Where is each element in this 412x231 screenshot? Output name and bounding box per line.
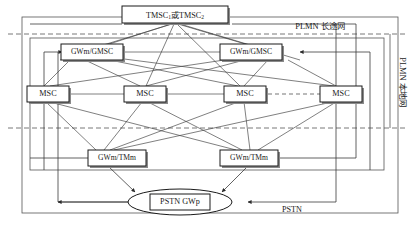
pstn-gwp-label: PSTN GWp xyxy=(160,197,200,206)
link-gwmgmscL-msc3 xyxy=(100,58,238,86)
diagram-canvas: TMSC1或TMSC2 GWm/GMSC GWm/GMSC MSC MSC xyxy=(0,0,412,231)
link-msc2-tmmR xyxy=(148,102,242,150)
link-gwmgmscL-msc2 xyxy=(85,60,140,86)
link-msc4-tmmR xyxy=(258,102,336,150)
link-gwmgmscR-msc3 xyxy=(244,60,268,86)
network-topology-diagram: TMSC1或TMSC2 GWm/GMSC GWm/GMSC MSC MSC xyxy=(0,0,412,231)
gwmgmsc-right-label: GWm/GMSC xyxy=(230,47,272,56)
link-msc3-tmmL xyxy=(110,102,238,150)
link-msc3-tmmR xyxy=(244,102,250,150)
link-tmsc-msc2 xyxy=(146,24,174,86)
route-right-up-to-gwmgmsc xyxy=(300,52,370,170)
node-pstn-gwp[interactable]: PSTN GWp xyxy=(128,189,232,215)
node-gwm-tmm-left[interactable]: GWm/TMm xyxy=(88,150,148,168)
link-msc2-tmmL xyxy=(104,102,142,150)
link-gwmgmscL-msc1 xyxy=(44,60,70,86)
node-gwm-tmm-right[interactable]: GWm/TMm xyxy=(220,150,280,168)
node-tmsc[interactable]: TMSC1或TMSC2 xyxy=(122,6,230,25)
tmsc-conjunction: 或 xyxy=(171,9,179,19)
node-gwm-gmsc-left[interactable]: GWm/GMSC xyxy=(61,44,125,62)
link-msc1-tmmL xyxy=(46,102,96,150)
link-gwmgmscL-msc4 xyxy=(101,56,334,86)
gwmtmm-left-label: GWm/TMm xyxy=(98,153,136,162)
link-tmsc-gwmgmsc-right xyxy=(178,24,252,46)
gwmtmm-right-label: GWm/TMm xyxy=(230,153,268,162)
tmsc-sub-2: 2 xyxy=(201,14,204,20)
msc2-label: MSC xyxy=(136,89,154,98)
link-msc1-tmmR xyxy=(50,102,236,150)
node-msc-3[interactable]: MSC xyxy=(224,86,268,104)
msc4-label: MSC xyxy=(332,89,350,98)
link-msc4-tmmL xyxy=(114,102,332,150)
tmsc-prefix-2: TMSC xyxy=(179,10,202,19)
tmsc-prefix-1: TMSC xyxy=(146,10,169,19)
msc3-label: MSC xyxy=(236,89,254,98)
gwmgmsc-left-label: GWm/GMSC xyxy=(71,47,113,56)
msc1-label: MSC xyxy=(39,89,57,98)
tmsc-label: TMSC1或TMSC2 xyxy=(146,9,204,20)
label-pstn: PSTN xyxy=(282,205,302,214)
label-plmn-long-distance: PLMN 长途网 xyxy=(295,21,344,31)
node-msc-4[interactable]: MSC xyxy=(320,86,364,104)
route-left-down-to-pstn xyxy=(58,52,128,202)
link-group-msc-to-tmm xyxy=(46,102,336,150)
node-msc-2[interactable]: MSC xyxy=(124,86,168,104)
routing-left xyxy=(30,52,150,202)
link-gwmgmscR-msc4 xyxy=(288,60,336,86)
route-left-up-to-gwmgmsc xyxy=(44,52,62,170)
label-plmn-local: PLMN 本地网 xyxy=(398,57,408,106)
node-msc-1[interactable]: MSC xyxy=(27,86,71,104)
node-gwm-gmsc-right[interactable]: GWm/GMSC xyxy=(220,44,284,62)
